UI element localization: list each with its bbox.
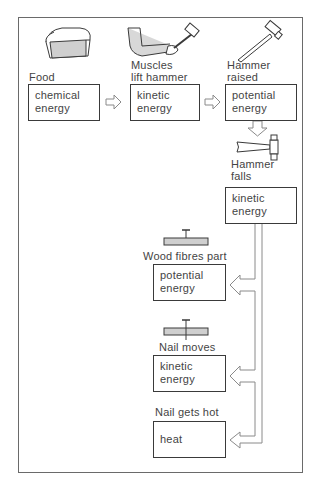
energy-label: chemical energy	[35, 89, 80, 115]
energy-box-chemical: chemical energy	[28, 84, 100, 121]
caption-hammer-falls: Hammer falls	[231, 158, 274, 182]
energy-label: heat	[160, 433, 182, 446]
branching-pipe	[230, 223, 262, 448]
nail-on-wood-icon	[164, 230, 208, 245]
caption-nail-hot: Nail gets hot	[155, 406, 219, 418]
energy-label: kinetic energy	[232, 192, 267, 218]
caption-wood-fibres: Wood fibres part	[143, 250, 227, 262]
caption-nail-moves: Nail moves	[159, 341, 215, 353]
caption-hammer-raised: Hammer raised	[227, 59, 270, 83]
energy-box-kinetic-muscles: kinetic energy	[130, 84, 200, 121]
raised-hammer-icon	[238, 20, 282, 62]
arm-lifting-hammer-icon	[128, 23, 199, 56]
energy-box-potential-hammer: potential energy	[225, 84, 297, 121]
energy-box-potential-wood: potential energy	[153, 264, 226, 301]
energy-label: potential energy	[232, 89, 275, 115]
down-arrow-icon	[248, 121, 267, 136]
bread-loaf-icon	[46, 28, 90, 58]
right-arrow-icon	[205, 95, 220, 109]
energy-label: kinetic energy	[160, 360, 195, 386]
energy-box-kinetic-nail: kinetic energy	[153, 355, 226, 392]
energy-box-kinetic-hammer: kinetic energy	[225, 187, 297, 224]
caption-food: Food	[29, 71, 55, 83]
energy-label: potential energy	[160, 269, 203, 295]
energy-box-heat: heat	[153, 421, 226, 458]
energy-label: kinetic energy	[137, 89, 172, 115]
falling-hammer-icon	[237, 135, 278, 160]
nail-in-wood-icon	[164, 320, 208, 340]
right-arrow-icon	[106, 95, 121, 109]
caption-muscles: Muscles lift hammer	[131, 59, 188, 83]
